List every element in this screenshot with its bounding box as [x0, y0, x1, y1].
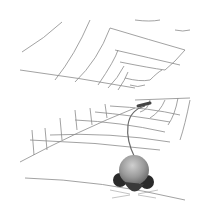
- mouse-tail: [128, 106, 145, 158]
- web-and-mouse-drawing: [0, 0, 205, 213]
- mouse: [110, 155, 158, 198]
- lower-web: [20, 98, 190, 200]
- upper-web: [20, 20, 190, 90]
- illustration: mouse on a spiral web of lines: [0, 0, 205, 213]
- mouse-body: [119, 155, 149, 185]
